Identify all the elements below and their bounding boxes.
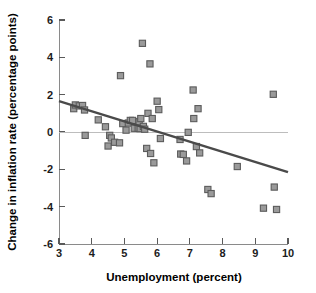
y-axis-title: Change in inflation rate (percentage poi… (6, 13, 18, 251)
x-tick-label: 4 (89, 247, 96, 259)
y-tick-label: -2 (43, 163, 53, 175)
y-tick-label: 4 (47, 51, 54, 63)
data-point-marker (116, 140, 122, 146)
data-points (71, 40, 280, 212)
data-point-marker (260, 205, 266, 211)
data-point-marker (270, 91, 276, 97)
data-point-marker (123, 127, 129, 133)
x-tick-label: 8 (220, 247, 226, 259)
data-point-marker (154, 98, 160, 104)
regression-trend-line (59, 101, 288, 172)
data-point-marker (138, 115, 144, 121)
scatter-plot-figure: 345678910 -6-4-20246 Unemployment (perce… (0, 0, 316, 293)
data-point-marker (156, 107, 162, 113)
x-tick-label: 6 (154, 247, 160, 259)
data-point-marker (147, 61, 153, 67)
data-point-marker (208, 191, 214, 197)
data-point-marker (197, 150, 203, 156)
data-point-marker (102, 124, 108, 130)
data-point-marker (190, 87, 196, 93)
data-point-marker (185, 129, 191, 135)
data-point-marker (157, 135, 163, 141)
y-tick-label: 2 (47, 89, 53, 101)
data-point-marker (234, 163, 240, 169)
y-tick-label: -6 (43, 238, 53, 250)
data-point-marker (271, 184, 277, 190)
data-point-marker (95, 117, 101, 123)
data-point-marker (151, 160, 157, 166)
data-point-marker (195, 106, 201, 112)
x-tick-label: 3 (56, 247, 62, 259)
x-tick-label: 9 (252, 247, 258, 259)
x-axis-title: Unemployment (percent) (106, 271, 242, 283)
x-axis-tick-labels: 345678910 (56, 247, 294, 259)
data-point-marker (105, 143, 111, 149)
data-point-marker (148, 150, 154, 156)
data-point-marker (139, 40, 145, 46)
y-tick-label: -4 (43, 201, 54, 213)
y-axis-tick-labels: -6-4-20246 (43, 14, 54, 250)
y-tick-label: 6 (47, 14, 53, 26)
data-point-marker (191, 115, 197, 121)
data-point-marker (273, 206, 279, 212)
x-tick-label: 5 (121, 247, 127, 259)
data-point-marker (183, 158, 189, 164)
data-point-marker (82, 132, 88, 138)
data-point-marker (180, 151, 186, 157)
x-tick-label: 7 (187, 247, 193, 259)
data-point-marker (149, 115, 155, 121)
plot-canvas: 345678910 -6-4-20246 Unemployment (perce… (0, 0, 316, 293)
y-tick-label: 0 (47, 126, 53, 138)
trend-line (59, 101, 288, 172)
data-point-marker (117, 73, 123, 79)
x-tick-label: 10 (282, 247, 294, 259)
